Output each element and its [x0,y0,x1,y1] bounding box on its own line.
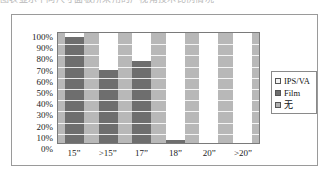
y-axis-tick: 20% [37,122,54,133]
y-axis: 100%90%80%70%60%50%40%30%20%10%0% [18,26,55,150]
x-axis-tick: 18” [158,146,192,162]
x-axis: 15”>15”17”18”20”>20” [57,146,260,162]
clipped-header-text-line: 图表显示不同尺寸面板所采用的广视角技术比例情况 [0,0,329,4]
bar-segment-ips-va [99,33,118,70]
y-axis-tick: 90% [37,43,54,54]
stacked-bar[interactable] [65,33,84,143]
bar-segment-ips-va [132,33,151,61]
legend-item-ips-va[interactable]: IPS/VA [275,75,314,86]
legend-label: Film [284,88,300,98]
y-axis-tick: 30% [37,110,54,121]
y-axis-tick: 60% [37,77,54,88]
x-axis-tick: 17” [125,146,159,162]
y-axis-tick: 10% [37,133,54,144]
bar-segment-film [166,140,185,143]
bar-segment-ips-va [199,33,218,143]
bar-segment-ips-va [233,33,252,143]
stacked-bar[interactable] [199,33,218,143]
bar-column-slot [58,33,92,143]
x-axis-tick: 20” [192,146,226,162]
bar-column-slot [92,33,126,143]
y-axis-tick: 0% [41,144,53,155]
stacked-bar[interactable] [99,33,118,143]
chart-legend: IPS/VAFilm无 [271,71,317,114]
y-axis-tick: 70% [37,66,54,77]
bar-segment-ips-va [166,33,185,140]
bar-segment-film [132,61,151,144]
y-axis-tick: 50% [37,88,54,99]
plot-area [57,32,260,144]
bar-segment-film [65,37,84,143]
bar-column-slot [159,33,193,143]
legend-swatch-icon [275,102,281,108]
legend-swatch-icon [275,78,281,84]
bar-segment-film [99,70,118,143]
chart-frame: 100%90%80%70%60%50%40%30%20%10%0% 15”>15… [11,14,318,166]
x-axis-tick: >15” [91,146,125,162]
y-axis-tick: 80% [37,54,54,65]
bar-column-slot [192,33,226,143]
legend-item-none[interactable]: 无 [275,99,314,110]
stacked-bar[interactable] [132,33,151,143]
legend-item-film[interactable]: Film [275,87,314,98]
y-axis-tick: 100% [32,32,53,43]
x-axis-tick: >20” [226,146,260,162]
stacked-bar[interactable] [233,33,252,143]
legend-label: 无 [284,100,293,110]
bar-columns [58,33,259,143]
legend-swatch-icon [275,90,281,96]
stacked-bar[interactable] [166,33,185,143]
legend-label: IPS/VA [284,76,310,86]
clipped-header-text: 图表显示不同尺寸面板所采用的广视角技术比例情况 [0,0,329,11]
y-axis-tick: 40% [37,99,54,110]
bar-column-slot [125,33,159,143]
x-axis-tick: 15” [57,146,91,162]
bar-column-slot [226,33,260,143]
